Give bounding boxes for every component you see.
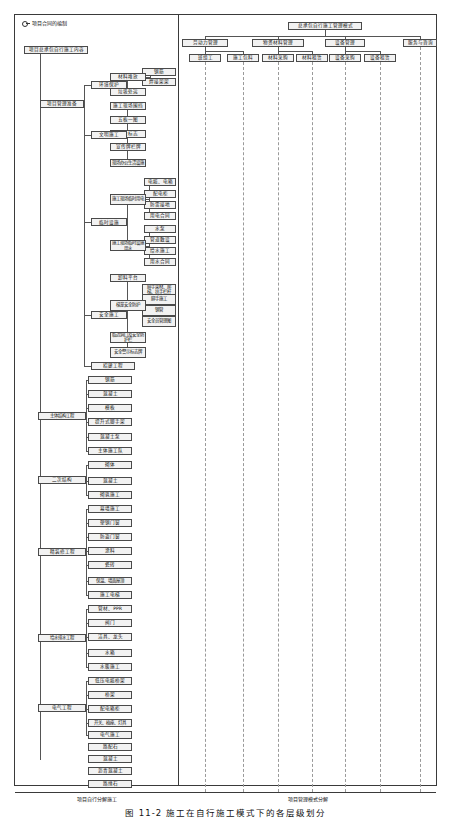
tree-v-group0 — [84, 85, 85, 367]
tree-v-g3 — [86, 509, 87, 595]
tree-v-g4 — [86, 609, 87, 667]
tree-node-civil-4: 现场办公生活设施 — [110, 159, 146, 167]
tree-node-civil-0: 施工现场围挡 — [110, 102, 146, 110]
matrix-category-2: 设备管理 — [325, 39, 365, 47]
matrix-column-3: 材料租赁 — [296, 54, 328, 62]
footer-rule — [15, 792, 436, 793]
matrix-category-3: 服务与咨询 — [403, 39, 437, 47]
tree-leaf-g2-0: 砌体 — [88, 461, 132, 469]
matrix-category-0: 劳动力管理 — [182, 39, 228, 47]
legend-label: 项目合同的编制 — [32, 19, 67, 26]
tree-v-tempg — [127, 199, 128, 246]
tree-node-civil-3: 宣传牌栏牌 — [110, 143, 146, 151]
matrix-column-1: 施工包料 — [227, 54, 259, 62]
matrix-column-4: 设备采购 — [329, 54, 361, 62]
tree-leaf-g3-5: 保温、墙面屋顶 — [88, 577, 132, 585]
tree-leaf-g4-3: 水箱 — [88, 649, 132, 657]
tree-group-0: 项目管理准备 — [40, 100, 84, 108]
tree-leaf-temp-1-3: 用水合同 — [144, 258, 176, 266]
tree-group-3: 精装修工程 — [38, 548, 86, 556]
tree-leaf-g6-1: 混凝土 — [88, 755, 132, 763]
tree-leaf-g5-1: 桥架 — [88, 691, 132, 699]
tree-node-safety: 安全施工 — [91, 311, 127, 319]
matrix-sub-bus-2 — [345, 51, 380, 52]
tree-leaf-g4-4: 水暖施工 — [88, 663, 132, 671]
tree-leaf-temp-0-1: 配电柜 — [144, 190, 176, 198]
tree-leaf-safe-1: 脚手施工 — [142, 294, 176, 305]
tree-leaf-g4-2: 洁具、龙头 — [88, 633, 132, 641]
matrix-column-line-1 — [243, 62, 244, 792]
tree-h-group0 — [84, 135, 91, 136]
tree-node-temp-sub-0: 施工现场临时用电 — [110, 194, 146, 205]
tree-leaf-g2-2: 砌筑施工 — [88, 491, 132, 499]
tree-leaf-g1-1: 混凝土 — [88, 390, 132, 398]
tree-leaf-g3-1: 塑钢门窗 — [88, 519, 132, 527]
tree-leaf-g3-4: 瓷砖 — [88, 561, 132, 569]
tree-group-4: 给水排水工程 — [38, 634, 86, 642]
matrix-column-5: 设备租赁 — [364, 54, 396, 62]
tree-leaf-g5-4: 电气施工 — [88, 731, 132, 739]
tree-node-temp: 临时设施 — [91, 218, 127, 226]
matrix-root: 总承包自行施工管理模式 — [288, 22, 362, 30]
tree-leaf-temp-1-2: 给水施工 — [144, 247, 176, 255]
tree-group-2: 二次结构 — [38, 476, 86, 484]
tree-leaf-g4-0: 管材、PPR — [88, 605, 132, 613]
tree-leaf-g6-0: 路配石 — [88, 743, 132, 751]
tree-node-temp-sub-1: 施工现场临时设施用水 — [110, 240, 146, 251]
tree-h-group0 — [84, 85, 91, 86]
tree-leaf-safe-3: 安全员管理图 — [142, 316, 176, 327]
tree-leaf-g3-6: 施工电梯 — [88, 591, 132, 599]
tree-leaf-g1-4: 混凝土泵 — [88, 433, 132, 441]
figure-caption: 图 11-2 施工在自行施工模式下的各层级划分 — [0, 806, 451, 818]
tree-root: 项目总承包自行施工内容 — [24, 46, 88, 54]
matrix-sub-bus-1 — [278, 51, 312, 52]
diagram-frame — [14, 14, 437, 786]
matrix-column-0: 班组工 — [189, 54, 221, 62]
tree-node-bid: 招建工程 — [91, 362, 135, 370]
tree-leaf-g5-3: 开关、插座、灯具 — [88, 719, 132, 727]
tree-leaf-safe-2: 钢管 — [142, 305, 176, 316]
tree-node-safe-3: 安全警示标志牌 — [110, 347, 146, 358]
tree-leaf-g1-0: 钢筋 — [88, 376, 132, 384]
tree-leaf-g5-2: 配电箱柜 — [88, 705, 132, 713]
tree-v-g1 — [86, 380, 87, 451]
tree-leaf-g1-3: 提升式脚手架 — [88, 418, 132, 426]
tree-node-safe-1: 梯笼安全防护 — [110, 300, 146, 311]
center-divider — [178, 14, 179, 786]
tree-node-env: 环境保护 — [91, 81, 127, 89]
tree-leaf-temp-1-0: 水泵 — [144, 225, 176, 233]
tree-leaf-g1-5: 主体施工队 — [88, 447, 132, 455]
tree-leaf-g1-2: 模板 — [88, 404, 132, 412]
matrix-column-line-2 — [278, 62, 279, 792]
tree-leaf-g2-1: 混凝土 — [88, 477, 132, 485]
matrix-category-1: 物资材料管理 — [252, 39, 304, 47]
tree-leaf-g3-3: 涂料 — [88, 547, 132, 555]
footer-label-right: 项目管理模式分解 — [179, 795, 436, 802]
matrix-cat-bus — [205, 36, 420, 37]
tree-h-group0 — [84, 222, 91, 223]
tree-v-temp-0 — [149, 182, 150, 216]
tree-v-g5 — [86, 681, 87, 735]
legend-marker-stem — [26, 23, 30, 24]
tree-leaf-temp-0-0: 电缆、电箱 — [144, 178, 176, 186]
tree-h-group0 — [84, 366, 91, 367]
footer-label-left: 项目自行分解施工 — [15, 795, 178, 802]
legend-marker-icon — [22, 21, 28, 27]
tree-group-5: 电气工程 — [38, 704, 86, 712]
tree-leaf-mat-1: 焊接架架 — [142, 78, 176, 86]
tree-leaf-g3-2: 防盗门窗 — [88, 533, 132, 541]
tree-leaf-g5-0: 低压电缆桥架 — [88, 677, 132, 685]
matrix-column-2: 材料采购 — [262, 54, 294, 62]
tree-node-safe-2: 临边洞口及安全防护栏 — [110, 332, 146, 343]
tree-leaf-g6-3: 路缘石 — [88, 780, 132, 788]
matrix-column-line-5 — [380, 62, 381, 792]
tree-h-group0 — [84, 315, 91, 316]
matrix-column-line-4 — [345, 62, 346, 792]
tree-leaf-temp-0-3: 用电合同 — [144, 212, 176, 220]
matrix-column-line-0 — [205, 62, 206, 792]
tree-leaf-g3-0: 幕墙施工 — [88, 505, 132, 513]
tree-leaf-temp-0-2: 防雷接地 — [144, 201, 176, 209]
matrix-column-line-6 — [420, 47, 421, 792]
tree-node-civil-1: 五板一图 — [110, 116, 146, 124]
tree-node-safe-0: 卸料平台 — [110, 274, 146, 282]
